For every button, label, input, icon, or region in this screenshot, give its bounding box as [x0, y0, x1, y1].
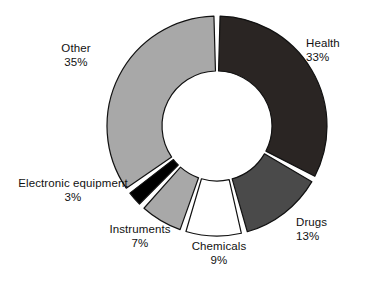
- slice-label-drugs: Drugs 13%: [296, 216, 327, 243]
- slice-label-health-value: 33%: [306, 51, 340, 65]
- slice-label-chemicals-name: Chemicals: [176, 240, 262, 254]
- donut-slice-other: [107, 16, 215, 188]
- slice-label-chemicals-value: 9%: [176, 254, 262, 268]
- slice-label-health-name: Health: [306, 37, 340, 51]
- slice-label-electronic-equipment-value: 3%: [6, 191, 140, 205]
- slice-label-chemicals: Chemicals 9%: [176, 240, 262, 267]
- chart-page: Health 33% Drugs 13% Chemicals 9% Instru…: [0, 0, 374, 285]
- slice-label-other: Other 35%: [48, 42, 104, 69]
- slice-label-instruments-value: 7%: [96, 237, 184, 251]
- slice-label-instruments-name: Instruments: [96, 223, 184, 237]
- slice-label-instruments: Instruments 7%: [96, 223, 184, 250]
- slice-label-health: Health 33%: [306, 37, 340, 64]
- slice-label-drugs-name: Drugs: [296, 216, 327, 230]
- slice-label-electronic-equipment: Electronic equipment 3%: [6, 177, 140, 204]
- slice-label-other-value: 35%: [48, 56, 104, 70]
- slice-label-drugs-value: 13%: [296, 230, 327, 244]
- slice-label-electronic-equipment-name: Electronic equipment: [6, 177, 140, 191]
- slice-label-other-name: Other: [48, 42, 104, 56]
